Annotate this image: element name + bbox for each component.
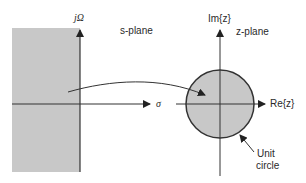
s-plane-imag-axis-label: jΩ [74,13,84,23]
z-plane-real-axis-label: Re{z} [270,99,294,109]
mapping-arrow [68,82,205,95]
unit-circle-pointer [240,135,254,152]
s-plane-title: s-plane [120,26,153,36]
z-plane-imag-axis-label: Im{z} [208,14,231,24]
s-plane-left-half-region [12,28,80,172]
s-to-z-mapping-diagram: jΩ s-plane σ Im{z} z-plane Re{z} Unit ci… [0,0,306,183]
s-plane-real-axis-label: σ [156,99,161,109]
unit-circle-label-line2: circle [256,161,279,171]
z-plane-title: z-plane [236,27,269,37]
unit-circle-label-line1: Unit [257,149,275,159]
